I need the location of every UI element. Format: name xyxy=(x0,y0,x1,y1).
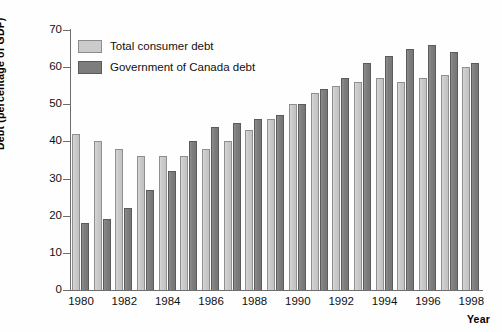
bar-1993-series-1 xyxy=(354,82,362,290)
bar-group-1996 xyxy=(419,30,437,290)
bar-1992-series-1 xyxy=(332,86,340,290)
bar-1982-series-2 xyxy=(124,208,132,290)
bar-1985-series-2 xyxy=(189,141,197,290)
x-axis-tick-label: 1980 xyxy=(61,296,101,308)
bar-1980-series-2 xyxy=(81,223,89,290)
bar-1995-series-1 xyxy=(397,82,405,290)
bar-group-1992 xyxy=(332,30,350,290)
x-axis-tick-label: 1994 xyxy=(365,296,405,308)
bar-group-1998 xyxy=(462,30,480,290)
legend-swatch-icon xyxy=(78,40,102,53)
bar-1985-series-1 xyxy=(180,156,188,290)
bar-1995-series-2 xyxy=(406,49,414,290)
bar-1997-series-1 xyxy=(441,75,449,290)
legend-item-government-of-canada-debt: Government of Canada debt xyxy=(78,59,255,76)
bar-1987-series-1 xyxy=(224,141,232,290)
chart-figure: Debt (percentage of GDP) 010203040506070… xyxy=(0,0,502,332)
bar-1982-series-1 xyxy=(115,149,123,290)
y-axis-tick xyxy=(63,104,70,105)
bar-1986-series-2 xyxy=(211,127,219,290)
y-axis-tick-label: 20 xyxy=(22,210,62,222)
bar-1994-series-2 xyxy=(385,56,393,290)
y-axis-title: Debt (percentage of GDP) xyxy=(0,17,6,150)
y-axis-tick xyxy=(63,216,70,217)
y-axis-tick xyxy=(63,67,70,68)
bar-1984-series-2 xyxy=(168,171,176,290)
y-axis-tick-label: 10 xyxy=(22,247,62,259)
y-axis-tick-label: 0 xyxy=(22,284,62,296)
bar-group-1990 xyxy=(289,30,307,290)
x-axis-title: Year xyxy=(467,313,490,325)
x-axis-tick-label: 1986 xyxy=(191,296,231,308)
bar-1990-series-1 xyxy=(289,104,297,290)
x-axis-tick-label: 1988 xyxy=(234,296,274,308)
y-axis-tick xyxy=(63,179,70,180)
bar-1981-series-2 xyxy=(103,219,111,290)
bar-1992-series-2 xyxy=(341,78,349,290)
bar-1993-series-2 xyxy=(363,63,371,290)
bar-1998-series-1 xyxy=(462,67,470,290)
y-axis-tick xyxy=(63,290,70,291)
legend-item-total-consumer-debt: Total consumer debt xyxy=(78,38,255,55)
bar-1994-series-1 xyxy=(376,78,384,290)
y-axis-tick xyxy=(63,253,70,254)
bar-1980-series-1 xyxy=(72,134,80,290)
x-axis-tick-label: 1996 xyxy=(408,296,448,308)
x-axis-tick-label: 1992 xyxy=(321,296,361,308)
x-axis-tick-label: 1998 xyxy=(451,296,491,308)
x-axis-line xyxy=(70,290,483,291)
bar-1983-series-2 xyxy=(146,190,154,290)
x-axis-tick-label: 1982 xyxy=(104,296,144,308)
bar-1996-series-2 xyxy=(428,45,436,290)
x-axis-tick-label: 1984 xyxy=(148,296,188,308)
bar-1991-series-1 xyxy=(311,93,319,290)
bar-1989-series-2 xyxy=(276,115,284,290)
legend-swatch-icon xyxy=(78,61,102,74)
y-axis-tick-label: 50 xyxy=(22,98,62,110)
bar-1986-series-1 xyxy=(202,149,210,290)
y-axis-tick-label: 70 xyxy=(22,24,62,36)
bar-1988-series-2 xyxy=(254,119,262,290)
bar-1984-series-1 xyxy=(159,156,167,290)
y-axis-tick xyxy=(63,30,70,31)
bar-1988-series-1 xyxy=(245,130,253,290)
bar-1983-series-1 xyxy=(137,156,145,290)
bar-group-1995 xyxy=(397,30,415,290)
bar-1990-series-2 xyxy=(298,104,306,290)
bar-group-1994 xyxy=(376,30,394,290)
bar-group-1991 xyxy=(311,30,329,290)
y-axis-tick-label: 60 xyxy=(22,61,62,73)
bar-1997-series-2 xyxy=(450,52,458,290)
bar-group-1989 xyxy=(267,30,285,290)
bar-group-1997 xyxy=(441,30,459,290)
bar-group-1993 xyxy=(354,30,372,290)
bar-1987-series-2 xyxy=(233,123,241,290)
bar-1998-series-2 xyxy=(471,63,479,290)
y-axis-tick xyxy=(63,141,70,142)
legend-label: Government of Canada debt xyxy=(110,62,255,74)
bar-1996-series-1 xyxy=(419,78,427,290)
bar-1991-series-2 xyxy=(320,89,328,290)
legend-label: Total consumer debt xyxy=(110,41,214,53)
y-axis-tick-label: 40 xyxy=(22,135,62,147)
x-axis-tick-label: 1990 xyxy=(278,296,318,308)
bar-1989-series-1 xyxy=(267,119,275,290)
y-axis-tick-label: 30 xyxy=(22,173,62,185)
bar-1981-series-1 xyxy=(94,141,102,290)
chart-legend: Total consumer debt Government of Canada… xyxy=(78,38,255,80)
